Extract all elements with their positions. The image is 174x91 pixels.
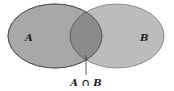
set-a-label: A (24, 32, 33, 43)
intersection-label: A ∩ B (69, 77, 102, 88)
venn-diagram: A B A ∩ B (0, 0, 174, 91)
set-b-label: B (139, 32, 148, 43)
